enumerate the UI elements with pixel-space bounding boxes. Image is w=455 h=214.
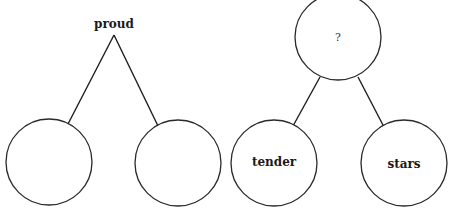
root-label-left: proud [94, 17, 134, 31]
edge-left-root-to-left-child [68, 35, 114, 124]
tree-right: ? tender stars [231, 0, 447, 206]
tree-left: proud [6, 17, 221, 206]
root-label-right: ? [335, 31, 341, 44]
edge-right-root-to-right-child [358, 77, 384, 127]
edge-right-root-to-left-child [293, 77, 320, 126]
diagram-canvas: proud ? tender stars [0, 0, 455, 214]
left-tree-right-child-node [135, 120, 221, 206]
right-tree-left-child-label: tender [252, 155, 297, 169]
left-tree-left-child-node [6, 119, 92, 205]
right-tree-right-child-label: stars [387, 157, 420, 171]
edge-left-root-to-right-child [114, 35, 158, 126]
